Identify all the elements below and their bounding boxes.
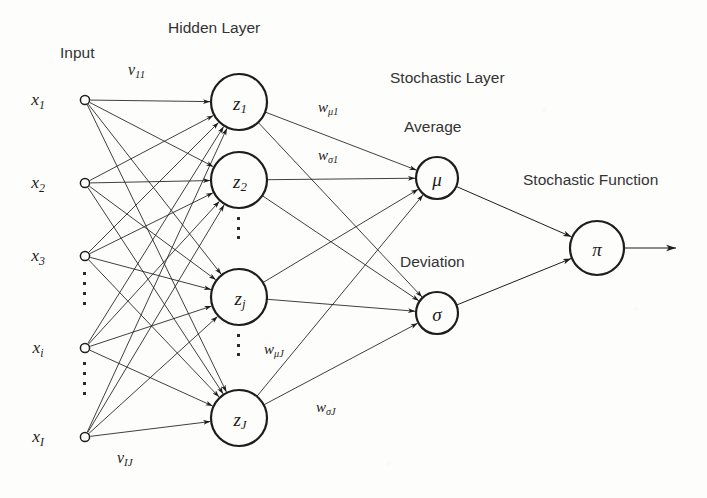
- edge-input-1-hidden-4: [87, 105, 226, 392]
- edge-hidden-1-mu: [265, 112, 416, 170]
- input-node-xi[interactable]: [80, 343, 89, 352]
- weight-label-w-mu-J: wμJ: [264, 342, 284, 357]
- weight-label-v-11: v11: [128, 62, 145, 78]
- hidden-ellipsis-1: [237, 217, 240, 239]
- ellipsis-dot: [83, 282, 86, 285]
- edge-input-1-hidden-1: [90, 100, 210, 102]
- ellipsis-dot: [237, 236, 240, 239]
- edges-input-to-hidden: [87, 100, 227, 436]
- ellipsis-dot: [83, 272, 86, 275]
- edge-input-5-hidden-2: [88, 205, 224, 432]
- heading-deviation: Deviation: [400, 254, 465, 270]
- edge-sigma-pi: [456, 259, 571, 306]
- edge-input-3-hidden-3: [90, 257, 211, 289]
- heading-hidden-layer: Hidden Layer: [168, 20, 260, 36]
- weight-label-w-sigma-1: wσ1: [318, 148, 338, 163]
- input-node-xI[interactable]: [80, 432, 89, 441]
- edge-input-1-hidden-3: [88, 104, 221, 274]
- hidden-label-z2: z2: [233, 172, 247, 191]
- edge-mu-pi: [456, 186, 571, 236]
- ellipsis-dot: [83, 372, 86, 375]
- edge-input-4-hidden-3: [90, 306, 211, 346]
- input-node-x3[interactable]: [80, 251, 89, 260]
- edge-input-3-hidden-4: [89, 260, 219, 397]
- edges-hidden-to-stochastic: [257, 112, 423, 405]
- ellipsis-dot: [237, 217, 240, 220]
- ellipsis-dot: [83, 362, 86, 365]
- ellipsis-dot: [237, 334, 240, 337]
- edge-hidden-4-mu: [257, 195, 423, 396]
- node-circles: [80, 74, 624, 446]
- input-label-xi: xi: [32, 339, 43, 357]
- input-ellipsis-1: [83, 272, 86, 305]
- edges-stochastic-to-output: [456, 186, 571, 305]
- input-label-x3: x3: [31, 247, 45, 265]
- heading-average: Average: [404, 119, 461, 135]
- edge-input-2-hidden-2: [90, 181, 210, 183]
- edge-input-4-hidden-1: [88, 127, 224, 344]
- heading-stochastic-function: Stochastic Function: [523, 172, 658, 188]
- pi-label: π: [592, 240, 602, 259]
- hidden-ellipsis-2: [237, 334, 240, 356]
- heading-stochastic-layer: Stochastic Layer: [390, 70, 505, 86]
- ellipsis-dot: [237, 344, 240, 347]
- hidden-label-zj: zj: [235, 289, 246, 308]
- hidden-label-zJ: zJ: [233, 410, 246, 429]
- weight-label-w-sigma-J: wσJ: [316, 400, 336, 415]
- edge-hidden-4-sigma: [264, 323, 418, 405]
- edge-hidden-2-sigma: [262, 196, 418, 301]
- input-label-x2: x2: [31, 174, 45, 192]
- ellipsis-dot: [237, 353, 240, 356]
- edge-hidden-2-mu: [267, 178, 415, 179]
- input-node-x1[interactable]: [80, 95, 89, 104]
- input-label-xI: xI: [32, 428, 44, 446]
- weight-label-w-mu-1: wμ1: [318, 100, 338, 115]
- hidden-label-z1: z1: [233, 94, 247, 113]
- heading-input: Input: [60, 45, 94, 61]
- edge-input-2-hidden-4: [88, 188, 223, 394]
- ellipsis-dot: [83, 292, 86, 295]
- ellipsis-dot: [83, 392, 86, 395]
- sigma-label: σ: [432, 305, 441, 324]
- ellipsis-dot: [237, 227, 240, 230]
- ellipsis-dot: [83, 382, 86, 385]
- input-ellipsis-2: [83, 362, 86, 395]
- edge-input-1-hidden-2: [90, 103, 213, 167]
- input-node-x2[interactable]: [80, 178, 89, 187]
- ellipsis-dot: [83, 302, 86, 305]
- input-label-x1: x1: [31, 91, 45, 109]
- mu-label: μ: [432, 170, 442, 189]
- edge-input-3-hidden-1: [89, 123, 219, 253]
- weight-label-v-IJ: vIJ: [117, 450, 133, 466]
- diagram-canvas: Input Hidden Layer Stochastic Layer Aver…: [0, 0, 707, 498]
- edge-input-3-hidden-2: [90, 193, 213, 254]
- edge-hidden-3-sigma: [267, 299, 415, 311]
- edge-input-5-hidden-4: [90, 422, 210, 437]
